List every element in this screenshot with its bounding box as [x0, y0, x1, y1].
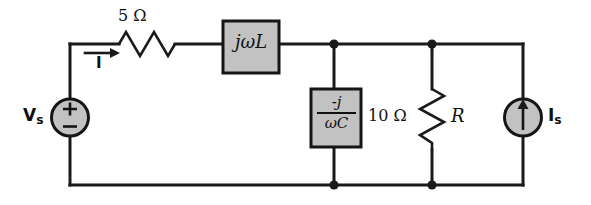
- capacitor-denominator: ωC: [312, 116, 361, 131]
- current-source-subscript: s: [554, 113, 561, 127]
- capacitor-numerator: -j: [312, 95, 361, 111]
- current-direction-arrow-icon: [85, 48, 120, 58]
- node-dot-top-right: [427, 39, 436, 48]
- shunt-resistor-value-label: 10 Ω: [368, 108, 407, 124]
- node-dot-bottom-right: [427, 180, 436, 189]
- voltage-source-subscript: s: [36, 113, 43, 127]
- node-dot-top-middle: [329, 39, 338, 48]
- inductor-impedance-label: jωL: [222, 33, 280, 51]
- node-dot-bottom-middle: [329, 180, 338, 189]
- series-resistor-value-label: 5 Ω: [118, 8, 147, 24]
- capacitor-impedance-label: -j ωC: [312, 95, 361, 131]
- voltage-source-symbol-letter: V: [23, 105, 36, 125]
- current-label: I: [96, 56, 102, 71]
- current-source-label: Is: [548, 107, 562, 126]
- circuit-diagram: 5 Ω I jωL -j ωC 10 Ω R Vs Is: [0, 0, 591, 205]
- series-resistor-symbol: [119, 32, 175, 56]
- voltage-source-symbol: [52, 99, 89, 136]
- current-source-symbol: [505, 99, 542, 136]
- shunt-resistor-symbol: [420, 89, 444, 150]
- circuit-schematic-svg: [0, 0, 591, 205]
- shunt-resistor-name-label: R: [451, 107, 465, 125]
- voltage-source-label: Vs: [23, 107, 43, 126]
